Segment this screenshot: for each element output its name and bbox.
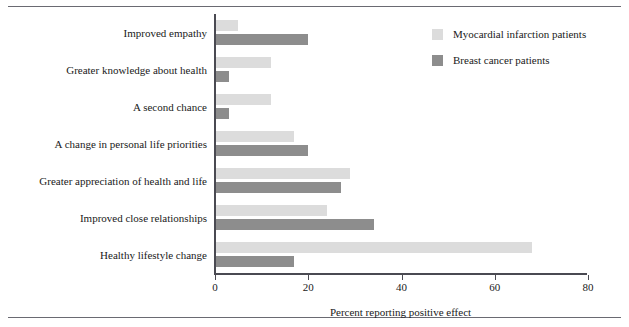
bar-row: A change in personal life priorities: [0, 125, 629, 162]
x-tick: [588, 275, 589, 280]
x-tick-label: 80: [568, 281, 608, 293]
bar-breast-cancer: [215, 145, 308, 156]
x-tick-label: 40: [382, 281, 422, 293]
bar-row: Improved close relationships: [0, 200, 629, 237]
bar-group: [215, 125, 615, 162]
category-label: A second chance: [7, 100, 215, 113]
category-label: Healthy lifestyle change: [7, 249, 215, 262]
bar-breast-cancer: [215, 219, 374, 230]
bar-myocardial-infarction: [215, 57, 271, 68]
legend-swatch-icon: [432, 29, 443, 40]
x-tick: [402, 275, 403, 280]
category-label: A change in personal life priorities: [7, 137, 215, 150]
x-tick: [308, 275, 309, 280]
chart-figure: Improved empathyGreater knowledge about …: [0, 0, 629, 327]
category-label: Greater knowledge about health: [7, 63, 215, 76]
bar-group: [215, 200, 615, 237]
bar-myocardial-infarction: [215, 168, 350, 179]
bar-myocardial-infarction: [215, 242, 532, 253]
bar-myocardial-infarction: [215, 94, 271, 105]
legend-label: Breast cancer patients: [453, 53, 550, 67]
figure-top-rule: [8, 6, 621, 7]
chart-legend: Myocardial infarction patients Breast ca…: [432, 27, 622, 79]
legend-item-breast-cancer-patients: Breast cancer patients: [432, 53, 622, 79]
bar-breast-cancer: [215, 256, 294, 267]
legend-item-myocardial-infarction-patients: Myocardial infarction patients: [432, 27, 622, 53]
bar-row: A second chance: [0, 88, 629, 125]
legend-label: Myocardial infarction patients: [453, 27, 586, 41]
category-label: Improved close relationships: [7, 212, 215, 225]
bar-breast-cancer: [215, 71, 229, 82]
y-axis-line: [214, 14, 216, 274]
bar-breast-cancer: [215, 182, 341, 193]
bar-myocardial-infarction: [215, 131, 294, 142]
bar-breast-cancer: [215, 108, 229, 119]
bar-group: [215, 237, 615, 274]
bar-myocardial-infarction: [215, 20, 238, 31]
x-axis-title: Percent reporting positive effect: [214, 306, 587, 318]
bar-group: [215, 88, 615, 125]
x-tick-label: 60: [475, 281, 515, 293]
category-label: Greater appreciation of health and life: [7, 175, 215, 188]
legend-swatch-icon: [432, 55, 443, 66]
bar-row: Healthy lifestyle change: [0, 237, 629, 274]
category-label: Improved empathy: [7, 26, 215, 39]
bar-breast-cancer: [215, 34, 308, 45]
bar-group: [215, 163, 615, 200]
x-tick: [215, 275, 216, 280]
x-tick-label: 0: [195, 281, 235, 293]
x-axis-line: [214, 273, 587, 275]
x-tick: [495, 275, 496, 280]
bar-row: Greater appreciation of health and life: [0, 163, 629, 200]
x-tick-label: 20: [288, 281, 328, 293]
bar-myocardial-infarction: [215, 205, 327, 216]
